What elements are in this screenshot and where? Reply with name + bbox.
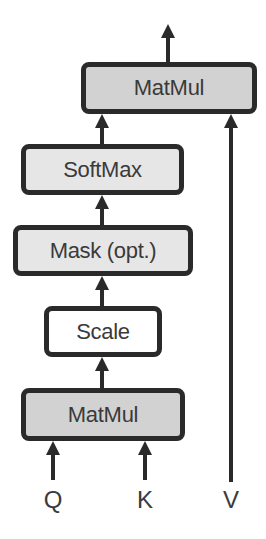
arrowhead-icon (95, 195, 109, 209)
arrowhead-icon (138, 441, 152, 455)
input-label-v: V (216, 486, 246, 514)
matmul-top-node: MatMul (81, 62, 257, 114)
node-label: Scale (76, 319, 130, 345)
arrowhead-icon (95, 114, 109, 128)
node-label: SoftMax (63, 157, 142, 183)
scale-node: Scale (44, 306, 162, 357)
node-label: Mask (opt.) (50, 238, 157, 264)
mask-node: Mask (opt.) (13, 225, 193, 276)
input-label-k: K (130, 486, 160, 514)
arrowhead-icon (161, 24, 175, 38)
node-label: MatMul (134, 75, 204, 101)
arrowhead-icon (95, 276, 109, 290)
arrowhead-icon (46, 441, 60, 455)
arrowhead-icon (224, 114, 238, 128)
matmul-bottom-node: MatMul (21, 388, 185, 441)
softmax-node: SoftMax (21, 144, 184, 195)
node-label: MatMul (68, 402, 138, 428)
arrowhead-icon (95, 357, 109, 371)
input-label-q: Q (38, 486, 68, 514)
